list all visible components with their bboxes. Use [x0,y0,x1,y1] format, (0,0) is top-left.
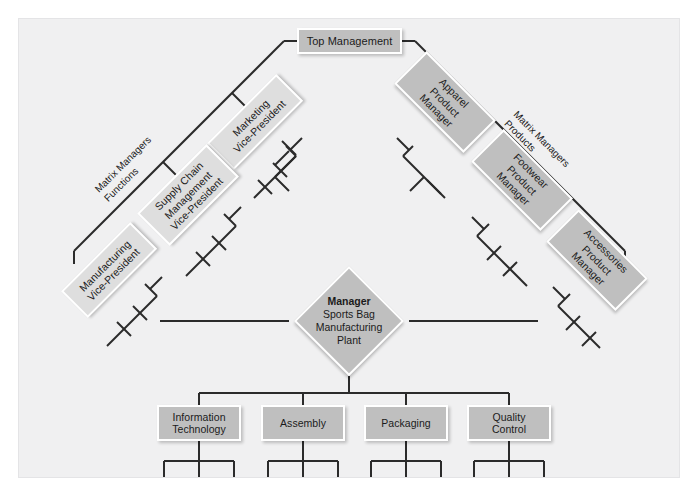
node-quality-control[interactable]: Quality Control [467,405,551,441]
diamond-shape [294,266,404,376]
substubs-packaging [371,441,441,477]
subbranch-marketing [254,138,302,198]
org-chart-canvas: Top Management Matrix Managers Functions… [0,0,699,496]
substubs-quality-control [474,441,544,477]
node-information-technology[interactable]: Information Technology [157,405,241,441]
substubs-information-technology [164,441,234,477]
subbranch-apparel [397,138,445,198]
subbranch-accessories [553,287,600,348]
node-assembly[interactable]: Assembly [261,405,345,441]
subbranch-footwear [472,217,527,286]
substubs-assembly [268,441,338,477]
node-top-management[interactable]: Top Management [297,28,402,54]
line-diamond-left [157,296,289,321]
node-plant-manager-diamond[interactable]: Manager Sports Bag Manufacturing Plant [289,266,409,376]
node-packaging[interactable]: Packaging [364,405,448,441]
